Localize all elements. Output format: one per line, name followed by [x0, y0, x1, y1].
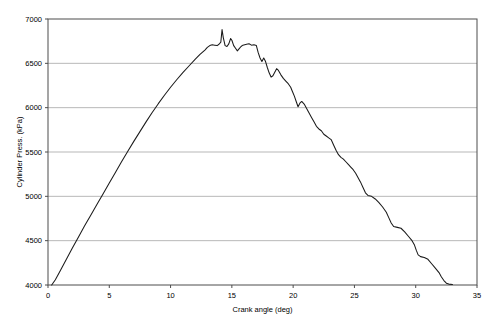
y-tick-label: 4000	[25, 281, 42, 290]
x-tick-label: 25	[350, 291, 358, 300]
grid-lines	[48, 63, 477, 240]
cylinder-pressure-line-chart: 4000450050005500600065007000 05101520253…	[0, 0, 500, 324]
x-axis-title: Crank angle (deg)	[232, 305, 293, 314]
y-tick-label: 6500	[25, 59, 42, 68]
x-tick-label: 35	[473, 291, 481, 300]
x-tick-label: 10	[166, 291, 174, 300]
chart-container: 4000450050005500600065007000 05101520253…	[0, 0, 500, 324]
y-tick-label: 7000	[25, 15, 42, 24]
data-series-cylinder-pressure	[52, 30, 453, 285]
x-tick-label: 30	[412, 291, 420, 300]
y-tick-label: 6000	[25, 103, 42, 112]
x-axis-tick-labels: 05101520253035	[46, 291, 481, 300]
y-tick-label: 5000	[25, 192, 42, 201]
y-tick-label: 5500	[25, 148, 42, 157]
y-axis-title: Cylinder Press. (kPa)	[15, 116, 24, 187]
y-tick-label: 4500	[25, 236, 42, 245]
x-tick-label: 5	[107, 291, 111, 300]
x-tick-label: 0	[46, 291, 50, 300]
x-tick-label: 15	[228, 291, 236, 300]
y-axis-tick-labels: 4000450050005500600065007000	[25, 15, 42, 290]
x-tick-label: 20	[289, 291, 297, 300]
